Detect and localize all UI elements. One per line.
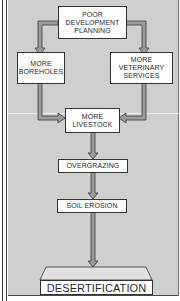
arrow-boreholes-to-livestock (38, 83, 65, 123)
node-more-boreholes: MORE BOREHOLES (17, 52, 65, 84)
node-more-livestock: MORE LIVESTOCK (65, 108, 120, 133)
node-label: SOIL EROSION (66, 202, 117, 210)
arrow-soil-erosion-to-desertification (88, 212, 98, 267)
arrow-veterinary-to-livestock (119, 83, 146, 123)
arrow-planning-to-boreholes (35, 21, 58, 55)
node-label: MORE LIVESTOCK (72, 113, 112, 129)
node-label: POOR DEVELOPMENT PLANNING (66, 11, 120, 35)
node-soil-erosion: SOIL EROSION (57, 199, 127, 213)
arrow-livestock-to-overgrazing (88, 132, 98, 159)
arrows-layer (0, 0, 180, 301)
node-label: DESERTIFICATION (47, 282, 147, 294)
arrow-overgrazing-to-soil-erosion (88, 171, 98, 199)
node-overgrazing: OVERGRAZING (58, 159, 128, 173)
node-more-veterinary-services: MORE VETERINARY SERVICES (110, 52, 173, 84)
node-label: MORE VETERINARY SERVICES (119, 56, 165, 80)
node-poor-development-planning: POOR DEVELOPMENT PLANNING (58, 6, 127, 39)
desertification-slab-top (40, 267, 152, 280)
node-label: MORE BOREHOLES (19, 60, 63, 76)
node-desertification: DESERTIFICATION (40, 280, 153, 295)
node-label: OVERGRAZING (67, 162, 120, 170)
arrow-planning-to-veterinary (126, 21, 149, 55)
